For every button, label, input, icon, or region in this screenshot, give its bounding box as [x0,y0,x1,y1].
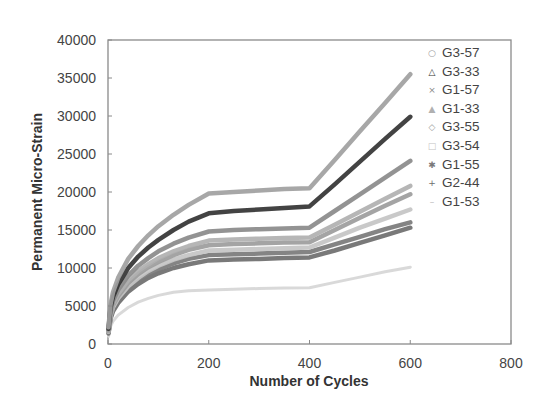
legend-marker-icon: × [428,85,436,95]
y-axis: 0500010000150002000025000300003500040000 [57,32,112,352]
x-axis-title: Number of Cycles [249,373,368,389]
y-tick-label: 25000 [57,146,96,162]
y-tick-label: 20000 [57,184,96,200]
legend-marker-icon: + [428,178,436,188]
legend-label: G1-53 [442,194,480,209]
y-tick-label: 30000 [57,108,96,124]
legend-label: G2-44 [442,175,480,190]
legend-marker-icon: ◇ [429,122,436,132]
legend-label: G3-55 [442,119,480,134]
legend-marker-icon: ✱ [428,160,436,170]
legend-marker-icon: ○ [428,48,436,58]
x-tick-label: 800 [499,355,523,371]
legend-marker-icon: ▲ [429,104,436,114]
permanent-strain-chart: 0500010000150002000025000300003500040000… [0,0,552,415]
x-tick-label: 200 [197,355,221,371]
legend-marker-icon: – [430,197,435,207]
y-tick-label: 5000 [65,298,96,314]
y-tick-label: 10000 [57,260,96,276]
x-tick-label: 600 [399,355,423,371]
y-axis-title: Permanent Micro-Strain [29,113,45,271]
legend-label: G1-55 [442,157,480,172]
legend-label: G3-54 [442,138,480,153]
legend-marker-icon: △ [429,67,436,77]
legend-label: G1-57 [442,82,480,97]
x-tick-label: 400 [298,355,322,371]
y-tick-label: 0 [88,336,96,352]
series-lines [109,74,411,336]
y-tick-label: 40000 [57,32,96,48]
legend-label: G3-57 [442,45,480,60]
legend-label: G3-33 [442,64,480,79]
legend-marker-icon: □ [428,141,437,151]
y-tick-label: 15000 [57,222,96,238]
legend-label: G1-33 [442,101,480,116]
y-tick-label: 35000 [57,70,96,86]
legend: ○G3-57△G3-33×G1-57▲G1-33◇G3-55□G3-54✱G1-… [428,45,480,209]
x-tick-label: 0 [104,355,112,371]
